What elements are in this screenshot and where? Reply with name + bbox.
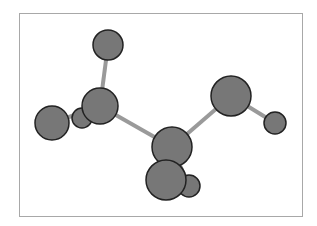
atom-B [82, 88, 118, 124]
atom-H [211, 76, 251, 116]
molecule-diagram [0, 0, 317, 226]
atom-F [146, 160, 186, 200]
atoms-layer [35, 30, 286, 200]
atom-A [93, 30, 123, 60]
atom-C [35, 106, 69, 140]
atom-I [264, 112, 286, 134]
